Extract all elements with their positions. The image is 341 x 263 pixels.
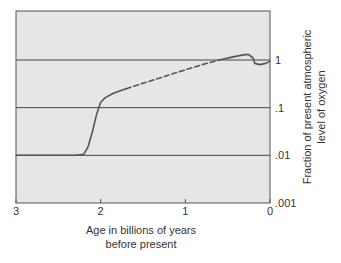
x-tick-label: 2 (98, 205, 104, 217)
y-axis-title-line1: Fraction of present atmospheric (301, 29, 313, 184)
x-axis-title-line1: Age in billions of years (86, 224, 197, 236)
x-tick-label: 0 (267, 205, 273, 217)
y-axis-title-line2: level of oxygen (315, 70, 327, 143)
y-axis: 1.1.01.001 (275, 54, 296, 209)
y-tick-label: .01 (275, 149, 290, 161)
x-tick-label: 1 (182, 205, 188, 217)
y-tick-label: .001 (275, 197, 296, 209)
plot-area (16, 11, 270, 203)
x-tick-label: 3 (13, 205, 19, 217)
y-tick-label: .1 (275, 102, 284, 114)
y-tick-label: 1 (275, 54, 281, 66)
oxygen-chart: 3210 1.1.01.001 Age in billions of years… (0, 0, 341, 263)
x-axis-title-line2: before present (106, 238, 177, 250)
